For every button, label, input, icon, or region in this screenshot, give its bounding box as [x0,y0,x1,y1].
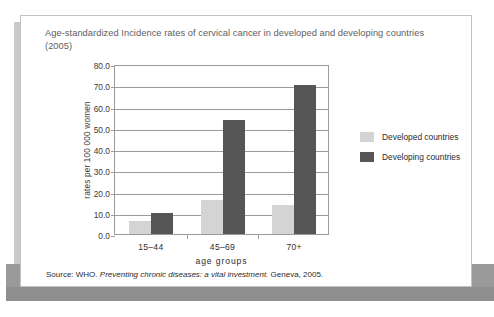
bar-developing-1 [223,120,245,234]
legend-label: Developing countries [382,152,460,162]
source-suffix: Geneva, 2005. [271,270,323,279]
y-tick-label: 60.0 [94,104,110,114]
legend-label: Developed countries [382,132,458,142]
x-tick-mark [187,234,188,239]
bars-group [115,66,328,234]
y-tick-label: 70.0 [94,82,110,92]
y-tick-mark [111,236,115,237]
figure-title: Age-standardized Incidence rates of cerv… [45,27,435,53]
figure-screenshot: Age-standardized Incidence rates of cerv… [0,0,494,317]
legend-item-developing: Developing countries [360,147,460,167]
figure-panel: Age-standardized Incidence rates of cerv… [20,15,472,287]
source-note: Source: WHO. Preventing chronic diseases… [46,270,323,279]
legend-swatch-icon [360,152,374,162]
bar-developing-2 [294,85,316,234]
chart-legend: Developed countriesDeveloping countries [360,127,460,167]
x-tick-label: 15–44 [138,242,163,252]
y-tick-label: 30.0 [94,167,110,177]
bar-developed-0 [129,221,151,234]
source-divider [45,268,449,269]
x-tick-mark [258,234,259,239]
page-right-tab [472,264,494,287]
source-prefix: Source: WHO. [46,270,98,279]
y-tick-label: 80.0 [94,61,110,71]
y-tick-label: 0.0 [98,231,110,241]
source-citation-title: Preventing chronic diseases: a vital inv… [100,270,269,279]
bar-developed-2 [272,205,294,234]
y-tick-label: 40.0 [94,146,110,156]
bar-developed-1 [201,200,223,234]
x-axis-title: age groups [114,256,329,266]
bar-developing-0 [151,213,173,234]
page-bottom-band [6,287,494,301]
legend-item-developed: Developed countries [360,127,460,147]
legend-swatch-icon [360,132,374,142]
plot-area: 0.010.020.030.040.050.060.070.080.0 15–4… [114,65,329,235]
y-tick-label: 20.0 [94,189,110,199]
y-tick-label: 10.0 [94,210,110,220]
x-tick-label: 70+ [286,242,301,252]
y-tick-label: 50.0 [94,125,110,135]
x-tick-label: 45–69 [210,242,235,252]
